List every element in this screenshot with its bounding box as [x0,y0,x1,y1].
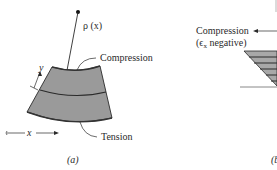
x-arrowhead-icon [54,131,59,135]
compression-label-b: Compression [196,25,249,36]
panel-b: Compression (ϵx negative) (b [196,0,277,166]
caption-a: (a) [67,154,79,166]
tension-label: Tension [101,131,133,142]
caption-b: (b [271,154,277,166]
compression-label: Compression [100,52,153,63]
compression-arrowhead-icon [253,29,258,33]
y-dimension-tick [30,86,38,90]
compression-sub-label: (ϵx negative) [196,37,247,50]
bending-diagram: y ρ (x) Compression Tension x (a) Compre… [0,0,277,170]
rho-label: ρ (x) [83,20,102,32]
x-axis-origin-break [6,131,7,135]
panel-a: y ρ (x) Compression Tension x (a) [6,10,153,166]
x-axis-label: x [26,127,32,138]
tension-leader [80,122,97,137]
y-axis-label: y [38,62,44,73]
